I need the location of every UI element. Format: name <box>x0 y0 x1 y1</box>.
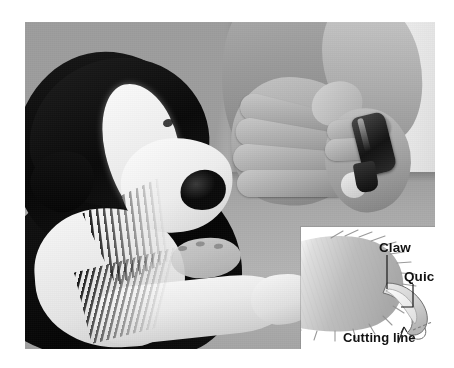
page-canvas: Claw Quick Cutting line <box>0 0 454 368</box>
label-claw: Claw <box>379 240 411 255</box>
photograph: Claw Quick Cutting line <box>25 22 435 349</box>
claw-diagram-inset: Claw Quick Cutting line <box>301 227 435 349</box>
label-cutting-line: Cutting line <box>343 330 416 345</box>
label-quick: Quick <box>404 269 435 284</box>
